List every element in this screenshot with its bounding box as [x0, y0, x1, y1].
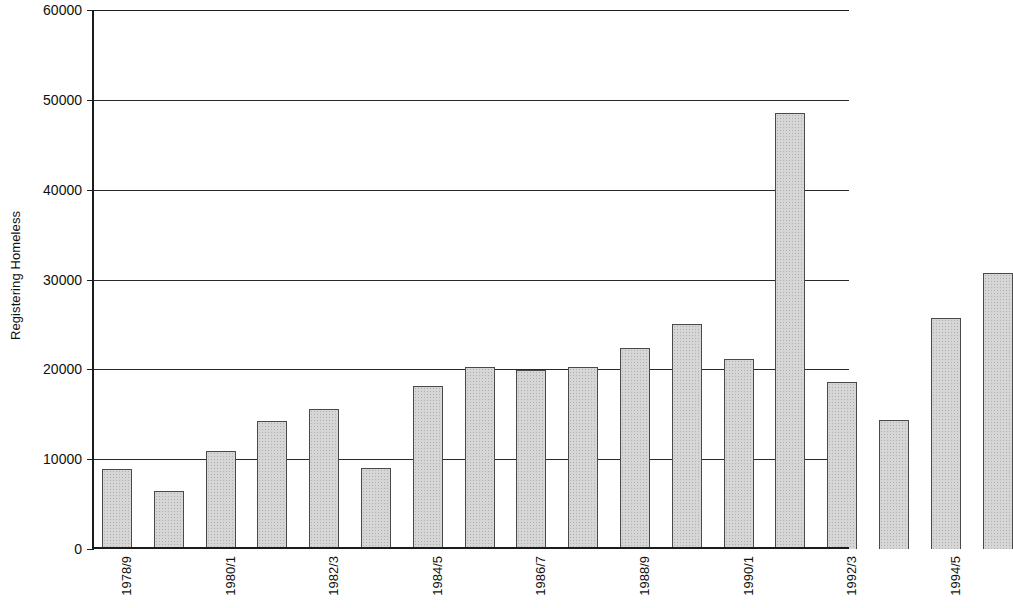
y-axis-title: Registering Homeless	[4, 0, 28, 550]
y-axis-tick-labels: 0100002000030000400005000060000	[26, 0, 88, 560]
bar	[775, 113, 805, 549]
bar	[413, 386, 443, 549]
bar	[361, 468, 391, 549]
bar	[102, 469, 132, 549]
x-axis-tick-labels: 1978/91980/11982/31984/51986/71988/91990…	[92, 552, 849, 608]
y-axis-tick	[87, 369, 94, 370]
y-axis-tick	[87, 10, 94, 11]
x-axis-line	[92, 547, 849, 549]
x-axis-tick-label: 1994/5	[949, 556, 962, 596]
bar	[465, 367, 495, 549]
x-axis-tick-label: 1990/1	[742, 556, 755, 596]
x-axis-tick-label: 1986/7	[534, 556, 547, 596]
bar	[516, 370, 546, 549]
y-axis-tick-label: 20000	[43, 362, 82, 376]
bar	[257, 421, 287, 549]
y-axis-tick	[87, 459, 94, 460]
bar	[206, 451, 236, 549]
y-axis-tick-label: 60000	[43, 3, 82, 17]
bar	[309, 409, 339, 549]
y-axis-tick	[87, 100, 94, 101]
plot-area	[92, 10, 849, 549]
x-axis-tick-label: 1988/9	[638, 556, 651, 596]
bar	[568, 367, 598, 549]
y-axis-tick-label: 30000	[43, 273, 82, 287]
y-axis-tick-label: 50000	[43, 93, 82, 107]
bar	[724, 359, 754, 549]
x-axis-tick-label: 1978/9	[120, 556, 133, 596]
bar	[931, 318, 961, 549]
x-axis-tick-label: 1992/3	[845, 556, 858, 596]
y-axis-tick	[87, 190, 94, 191]
bar	[827, 382, 857, 549]
y-axis-tick	[87, 280, 94, 281]
x-axis-tick-label: 1984/5	[431, 556, 444, 596]
x-axis-tick-label: 1980/1	[224, 556, 237, 596]
y-axis-title-text: Registering Homeless	[9, 210, 24, 339]
y-axis-tick-label: 0	[74, 542, 82, 556]
bars-layer	[94, 10, 849, 549]
x-axis-tick-label: 1982/3	[327, 556, 340, 596]
y-axis-tick-label: 10000	[43, 452, 82, 466]
bar	[879, 420, 909, 549]
bar	[154, 491, 184, 549]
y-axis-tick	[87, 549, 94, 550]
bar	[672, 324, 702, 549]
bar	[620, 348, 650, 549]
y-axis-tick-label: 40000	[43, 183, 82, 197]
bar	[983, 273, 1013, 549]
